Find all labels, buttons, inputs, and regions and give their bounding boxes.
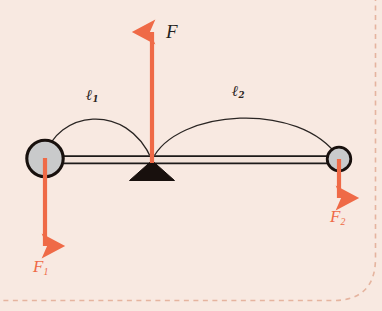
applied-force-label-text: F xyxy=(166,21,178,42)
right-arm-length-sub: 2 xyxy=(239,90,245,100)
right-arm-length-symbol: ℓ xyxy=(232,82,238,100)
right-arm-length-label: ℓ2 xyxy=(232,84,244,99)
left-arm-length-label: ℓ1 xyxy=(86,88,98,103)
diagram-svg xyxy=(0,0,382,311)
right-load-label-text: F xyxy=(330,207,340,226)
right-load-label: F2 xyxy=(330,208,345,225)
physics-diagram-canvas: F F1 F2 ℓ1 ℓ2 xyxy=(0,0,382,311)
lever-arm-right-arc xyxy=(152,118,339,160)
left-arm-length-symbol: ℓ xyxy=(86,86,92,104)
left-load-label: F1 xyxy=(33,258,48,275)
applied-force-label: F xyxy=(166,22,178,41)
left-load-label-sub: 1 xyxy=(44,266,49,277)
left-load-label-text: F xyxy=(33,257,43,276)
right-load-label-sub: 2 xyxy=(341,216,346,227)
left-arm-length-sub: 1 xyxy=(93,94,99,104)
